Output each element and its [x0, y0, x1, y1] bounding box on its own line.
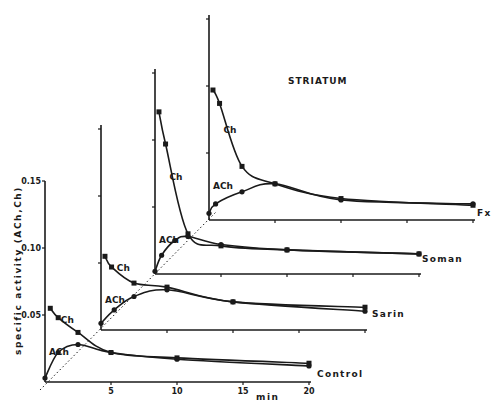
series-label-fx-ch: Ch — [224, 125, 237, 135]
y-tick-label: 0.10 — [21, 244, 41, 253]
marker-square-sarin — [109, 265, 114, 270]
marker-circle-soman — [159, 253, 164, 258]
marker-circle-control — [75, 342, 80, 347]
x-axis-unit-label: min — [256, 392, 279, 402]
chart-canvas: ChAChChAChChAChChACh0.050.100.155101520 — [0, 0, 503, 416]
panel-label-fx: Fx — [477, 208, 492, 218]
marker-circle-soman — [152, 269, 157, 274]
y-tick-label: 0.05 — [21, 311, 41, 320]
marker-square-control — [76, 330, 81, 335]
series-label-soman-ch: Ch — [170, 172, 183, 182]
y-axis-label: specific activity (ACh,Ch) — [13, 186, 23, 355]
marker-circle-sarin — [362, 309, 367, 314]
series-label-control-ach: ACh — [49, 347, 69, 357]
marker-circle-control — [108, 350, 113, 355]
marker-circle-sarin — [112, 307, 117, 312]
marker-circle-soman — [218, 242, 223, 247]
x-tick-label: 10 — [171, 387, 183, 396]
marker-circle-sarin — [98, 321, 103, 326]
panel-label-control: Control — [317, 369, 363, 379]
x-tick-label: 20 — [303, 387, 315, 396]
x-tick-label: 5 — [108, 387, 114, 396]
marker-circle-control — [42, 375, 47, 380]
series-label-soman-ach: ACh — [159, 235, 179, 245]
marker-square-fx — [217, 101, 222, 106]
marker-circle-fx — [338, 197, 343, 202]
series-label-sarin-ch: Ch — [117, 263, 130, 273]
marker-circle-fx — [470, 201, 475, 206]
y-tick-label: 0.15 — [21, 177, 41, 186]
curve-soman-ch — [159, 112, 419, 254]
marker-square-soman — [156, 109, 161, 114]
marker-square-control — [48, 306, 53, 311]
panel-label-sarin: Sarin — [372, 309, 405, 319]
series-label-fx-ach: ACh — [213, 181, 233, 191]
curve-control-ch — [50, 308, 309, 363]
panel-label-soman: Soman — [422, 254, 463, 264]
marker-square-sarin — [102, 254, 107, 259]
chart-title: STRIATUM — [288, 76, 348, 86]
marker-circle-fx — [206, 211, 211, 216]
marker-circle-sarin — [164, 287, 169, 292]
marker-square-fx — [210, 88, 215, 93]
marker-square-fx — [240, 164, 245, 169]
marker-circle-soman — [416, 251, 421, 256]
marker-circle-control — [174, 357, 179, 362]
marker-circle-fx — [272, 181, 277, 186]
marker-circle-soman — [185, 234, 190, 239]
marker-circle-sarin — [131, 294, 136, 299]
reference-diagonal — [40, 212, 216, 390]
series-label-sarin-ach: ACh — [105, 295, 125, 305]
marker-circle-fx — [213, 201, 218, 206]
marker-circle-soman — [284, 247, 289, 252]
x-tick-label: 15 — [237, 387, 249, 396]
marker-square-sarin — [132, 281, 137, 286]
marker-square-soman — [163, 142, 168, 147]
marker-circle-sarin — [230, 299, 235, 304]
marker-circle-control — [306, 363, 311, 368]
series-label-control-ch: Ch — [61, 315, 74, 325]
marker-circle-fx — [239, 189, 244, 194]
